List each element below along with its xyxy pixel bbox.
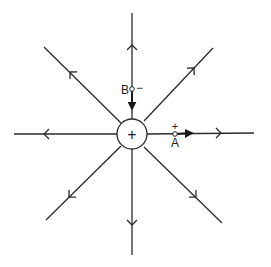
label-b: B <box>121 83 129 97</box>
test-charge-b <box>130 87 135 92</box>
label-a: A <box>171 136 179 150</box>
point-a: + A <box>171 120 192 150</box>
field-line-right <box>147 133 254 134</box>
charge-sign-plus: + <box>127 126 136 143</box>
field-line-upper-left <box>44 47 121 123</box>
field-diagram: + B − + A <box>0 0 271 267</box>
field-line-lower-right <box>144 147 222 223</box>
sign-minus-b: − <box>136 81 143 95</box>
sign-plus-a: + <box>172 120 178 132</box>
field-line-lower-left <box>46 146 121 220</box>
field-line-upper-right <box>144 48 213 121</box>
